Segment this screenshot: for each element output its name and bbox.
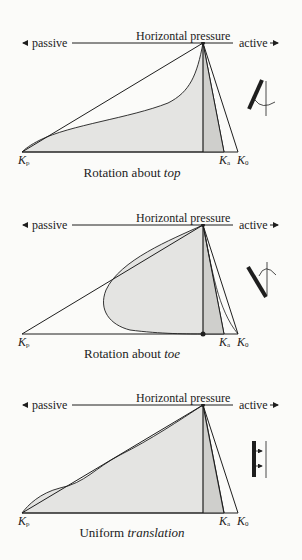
panel-caption: Uniform translation bbox=[0, 526, 264, 539]
active-label: active bbox=[239, 219, 268, 231]
panel-caption: Rotation about top bbox=[0, 166, 264, 179]
pressure-distribution-area bbox=[22, 43, 224, 152]
rotation-about-top-wall-icon bbox=[249, 80, 275, 116]
horizontal-pressure-label: Horizontal pressure bbox=[135, 212, 231, 224]
pressure-distribution-area bbox=[22, 405, 224, 513]
active-label: active bbox=[239, 399, 268, 411]
panel-rotation-about-toe bbox=[22, 223, 278, 337]
rotation-about-toe-wall-icon bbox=[248, 262, 276, 297]
earth-pressure-diagram bbox=[0, 0, 302, 560]
uniform-translation-wall-icon bbox=[252, 441, 266, 478]
horizontal-pressure-label: Horizontal pressure bbox=[135, 30, 231, 42]
panel-rotation-about-top bbox=[22, 41, 278, 152]
panel-uniform-translation bbox=[22, 403, 278, 513]
panel-caption: Rotation about toe bbox=[0, 347, 264, 360]
horizontal-pressure-label: Horizontal pressure bbox=[135, 392, 231, 404]
toe-dot bbox=[201, 332, 206, 337]
active-label: active bbox=[239, 37, 268, 49]
passive-label: passive bbox=[32, 219, 67, 231]
passive-label: passive bbox=[32, 399, 67, 411]
passive-label: passive bbox=[32, 37, 67, 49]
